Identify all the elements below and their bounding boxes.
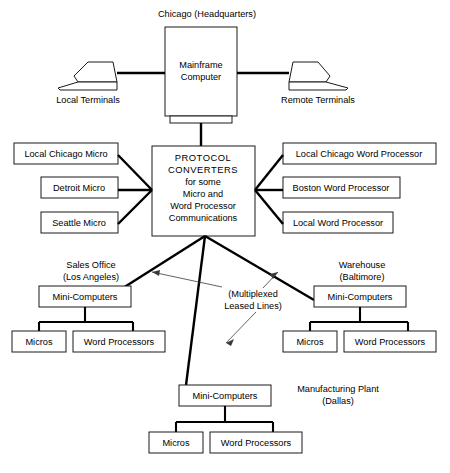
terminal-keyboard-icon xyxy=(58,82,117,90)
sales-office-micros-label: Micros xyxy=(25,337,52,347)
left-node-1-label: Detroit Micro xyxy=(53,183,105,193)
warehouse-word-processors-label: Word Processors xyxy=(355,337,426,347)
leader-line-sales-office xyxy=(152,272,222,287)
manufacturing-plant-caption-line1: Manufacturing Plant xyxy=(297,384,379,394)
warehouse-word-processors[interactable]: Word Processors xyxy=(344,331,436,352)
local-terminals-node[interactable]: Local Terminals xyxy=(56,62,120,105)
link-core-to-manufacturing-plant xyxy=(186,236,205,385)
manufacturing-plant-word-processors[interactable]: Word Processors xyxy=(210,432,302,453)
remote-terminal-keyboard-icon xyxy=(289,82,348,90)
diagram-canvas: Chicago (Headquarters) Mainframe Compute… xyxy=(0,0,450,473)
warehouse-hub[interactable]: Mini-Computers xyxy=(314,286,406,307)
sales-office-hub-label: Mini-Computers xyxy=(53,292,118,302)
manufacturing-plant-hub-label: Mini-Computers xyxy=(193,391,258,401)
sales-office-word-processors-label: Word Processors xyxy=(84,337,155,347)
protocol-converters-line6: Communications xyxy=(169,213,238,223)
warehouse-micros-label: Micros xyxy=(296,337,323,347)
leader-arrow-sales-office xyxy=(152,270,160,276)
protocol-converters-line5: Word Processor xyxy=(170,201,236,211)
left-node-0[interactable]: Local Chicago Micro xyxy=(14,143,118,164)
leader-arrow-manufacturing-plant xyxy=(226,339,234,346)
warehouse-caption-line2: (Baltimore) xyxy=(340,272,385,282)
link-left-node-0-to-core xyxy=(118,155,152,190)
protocol-converters-line3: for some xyxy=(185,177,221,187)
left-node-0-label: Local Chicago Micro xyxy=(24,149,107,159)
headquarters-caption: Chicago (Headquarters) xyxy=(158,9,256,19)
link-core-to-right-node-2 xyxy=(255,190,283,224)
warehouse-micros[interactable]: Micros xyxy=(283,331,337,352)
warehouse-hub-label: Mini-Computers xyxy=(328,292,393,302)
manufacturing-plant-caption-line2: (Dallas) xyxy=(322,396,354,406)
right-node-1-label: Boston Word Processor xyxy=(293,183,390,193)
manufacturing-plant-micros-label: Micros xyxy=(162,438,189,448)
multiplexed-annotation-line2: Leased Lines) xyxy=(224,301,282,311)
link-left-node-2-to-core xyxy=(118,190,152,224)
sales-office-caption-line1: Sales Office xyxy=(66,260,115,270)
manufacturing-plant-hub[interactable]: Mini-Computers xyxy=(179,385,271,406)
protocol-converters-line2: CONVERTERS xyxy=(168,164,238,175)
protocol-converters-line1: PROTOCOL xyxy=(175,152,231,163)
leader-line-manufacturing-plant xyxy=(226,312,256,343)
right-node-2-label: Local Word Processor xyxy=(293,218,383,228)
protocol-converters-node[interactable]: PROTOCOL CONVERTERS for some Micro and W… xyxy=(152,146,255,236)
sales-office-hub[interactable]: Mini-Computers xyxy=(39,286,131,307)
manufacturing-plant-word-processors-label: Word Processors xyxy=(221,438,292,448)
right-node-2[interactable]: Local Word Processor xyxy=(283,212,393,233)
link-core-to-right-node-0 xyxy=(255,155,283,190)
terminal-screen-icon xyxy=(74,62,117,82)
right-node-0[interactable]: Local Chicago Word Processor xyxy=(283,143,436,164)
remote-terminals-label: Remote Terminals xyxy=(281,95,355,105)
remote-terminals-node[interactable]: Remote Terminals xyxy=(281,62,355,105)
mainframe-label-line1: Mainframe xyxy=(179,60,222,70)
left-node-1[interactable]: Detroit Micro xyxy=(41,177,118,198)
warehouse-caption-line1: Warehouse xyxy=(339,260,386,270)
right-node-0-label: Local Chicago Word Processor xyxy=(296,149,422,159)
manufacturing-plant-micros[interactable]: Micros xyxy=(149,432,203,453)
sales-office-word-processors[interactable]: Word Processors xyxy=(73,331,165,352)
sales-office-micros[interactable]: Micros xyxy=(12,331,66,352)
network-diagram: Chicago (Headquarters) Mainframe Compute… xyxy=(0,0,450,473)
mainframe-computer-node[interactable]: Mainframe Computer xyxy=(165,27,237,123)
left-node-2-label: Seattle Micro xyxy=(52,218,106,228)
local-terminals-label: Local Terminals xyxy=(56,95,120,105)
mainframe-base-plinth xyxy=(170,116,232,123)
protocol-converters-line4: Micro and xyxy=(183,189,223,199)
remote-terminal-screen-icon xyxy=(289,62,330,82)
mainframe-label-line2: Computer xyxy=(181,72,221,82)
multiplexed-annotation-line1: (Multiplexed xyxy=(228,289,278,299)
sales-office-caption-line2: (Los Angeles) xyxy=(63,272,119,282)
left-node-2[interactable]: Seattle Micro xyxy=(41,212,118,233)
right-node-1[interactable]: Boston Word Processor xyxy=(283,177,400,198)
